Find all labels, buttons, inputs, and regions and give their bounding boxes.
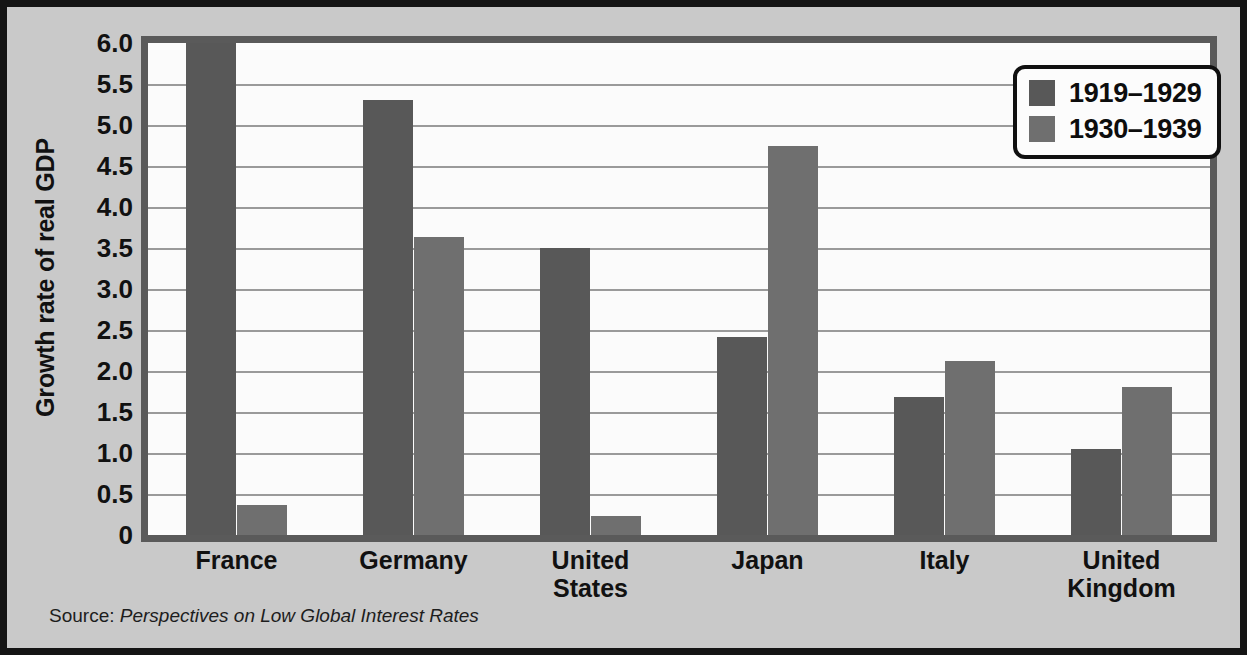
legend-swatch-icon xyxy=(1029,80,1055,106)
bar-group xyxy=(679,43,856,535)
y-axis-tick-label: 2.0 xyxy=(97,356,133,387)
x-axis-tick-label-line: Italy xyxy=(856,546,1033,574)
legend-item: 1919–1929 xyxy=(1029,75,1201,111)
source-note: Source: Perspectives on Low Global Inter… xyxy=(49,605,479,627)
y-axis-tick-label: 5.5 xyxy=(97,69,133,100)
x-axis-tick-label: Japan xyxy=(679,546,856,574)
chart-legend: 1919–19291930–1939 xyxy=(1013,65,1221,159)
bar xyxy=(540,248,590,535)
bar-group xyxy=(148,43,325,535)
legend-swatch-icon xyxy=(1029,116,1055,142)
y-axis-tick-label: 4.5 xyxy=(97,151,133,182)
bar xyxy=(186,43,236,535)
bar xyxy=(414,237,464,535)
y-axis-tick-label: 1.0 xyxy=(97,438,133,469)
y-axis-tick-label: 4.0 xyxy=(97,192,133,223)
x-axis-tick-label-line: States xyxy=(502,574,679,602)
bar xyxy=(1071,449,1121,535)
bar xyxy=(717,337,767,535)
bar-group xyxy=(325,43,502,535)
legend-item-label: 1930–1939 xyxy=(1069,114,1201,145)
legend-item: 1930–1939 xyxy=(1029,111,1201,147)
x-axis-tick-label-line: Germany xyxy=(325,546,502,574)
x-axis-tick-label-line: France xyxy=(148,546,325,574)
y-axis-title-label: Growth rate of real GDP xyxy=(31,138,60,417)
x-axis-tick-label: UnitedStates xyxy=(502,546,679,602)
bar xyxy=(894,397,944,535)
x-axis-tick-label-line: United xyxy=(502,546,679,574)
x-axis-tick-label-line: Japan xyxy=(679,546,856,574)
gdp-growth-bar-chart-figure: Growth rate of real GDP 00.51.01.52.02.5… xyxy=(0,0,1247,655)
x-axis-tick-label: Germany xyxy=(325,546,502,574)
bar xyxy=(591,516,641,535)
bar-group xyxy=(502,43,679,535)
bar xyxy=(237,505,287,535)
bar xyxy=(363,100,413,535)
x-axis-tick-label-line: United xyxy=(1033,546,1210,574)
x-axis-tick-label: Italy xyxy=(856,546,1033,574)
y-axis-tick-label: 3.0 xyxy=(97,274,133,305)
y-axis-tick-label: 2.5 xyxy=(97,315,133,346)
x-axis-tick-label: France xyxy=(148,546,325,574)
x-axis-tick-label: UnitedKingdom xyxy=(1033,546,1210,602)
y-axis-tick-label: 0 xyxy=(119,520,133,551)
bar xyxy=(768,146,818,536)
y-axis-tick-labels: 00.51.01.52.02.53.03.54.04.55.05.56.0 xyxy=(63,43,141,535)
bar-group xyxy=(856,43,1033,535)
y-axis-tick-label: 0.5 xyxy=(97,479,133,510)
source-title: Perspectives on Low Global Interest Rate… xyxy=(120,605,479,626)
y-axis-tick-label: 6.0 xyxy=(97,28,133,59)
x-axis-tick-label-line: Kingdom xyxy=(1033,574,1210,602)
legend-item-label: 1919–1929 xyxy=(1069,78,1201,109)
y-axis-tick-label: 1.5 xyxy=(97,397,133,428)
source-prefix: Source: xyxy=(49,605,120,626)
y-axis-tick-label: 3.5 xyxy=(97,233,133,264)
y-axis-tick-label: 5.0 xyxy=(97,110,133,141)
bar xyxy=(1122,387,1172,535)
bar xyxy=(945,361,995,535)
